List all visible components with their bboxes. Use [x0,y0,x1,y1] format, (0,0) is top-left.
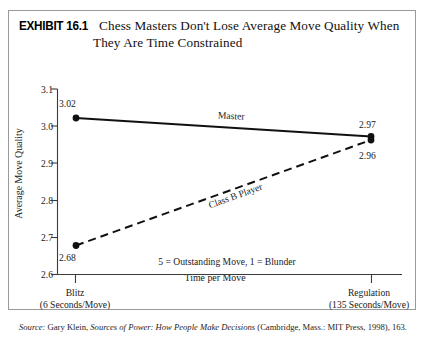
point-label-master-regulation: 2.97 [359,119,376,130]
exhibit-number: EXHIBIT 16.1 [19,18,88,35]
scale-annotation: 5 = Outstanding Move, 1 = Blunder [127,256,327,267]
x-category-blitz: Blitz (6 Seconds/Move) [22,287,128,310]
source-note: Source: Gary Klein, Sources of Power: Ho… [19,322,411,333]
y-tick-label-3-1: 3.1 [27,84,53,95]
y-tick-label-2-9: 2.9 [27,158,53,169]
source-work-title: Sources of Power: How People Make Decisi… [90,322,255,332]
x-category-regulation: Regulation (135 Seconds/Move) [313,287,425,310]
point-label-master-blitz: 3.02 [59,98,76,109]
exhibit-title: EXHIBIT 16.1Chess Masters Don't Lose Ave… [19,18,409,51]
source-label: Source: [19,322,45,332]
title-text-2: They Are Time Constrained [19,35,409,52]
exhibit-figure: EXHIBIT 16.1Chess Masters Don't Lose Ave… [0,0,427,360]
series-label-master: Master [218,109,245,121]
x-axis-title: Time per Move [155,272,275,283]
y-tick-label-2-8: 2.8 [27,195,53,206]
y-axis-title: Average Move Quality [13,119,24,229]
y-tick-label-2-7: 2.7 [27,232,53,243]
source-author: Gary Klein, [45,322,90,332]
title-text-1: Chess Masters Don't Lose Average Move Qu… [99,18,399,33]
y-tick-label-2-6: 2.6 [27,269,53,280]
x-category-regulation-sublabel: (135 Seconds/Move) [329,299,409,310]
x-category-regulation-label: Regulation [348,287,390,298]
x-category-blitz-label: Blitz [66,287,85,298]
title-line-1: EXHIBIT 16.1Chess Masters Don't Lose Ave… [19,18,409,35]
point-label-classb-blitz: 2.68 [59,252,76,263]
source-publication: (Cambridge, Mass.: MIT Press, 1998), 163… [255,322,407,332]
y-tick-label-3-0: 3.0 [27,121,53,132]
point-label-classb-regulation: 2.96 [359,150,376,161]
x-category-blitz-sublabel: (6 Seconds/Move) [40,299,111,310]
